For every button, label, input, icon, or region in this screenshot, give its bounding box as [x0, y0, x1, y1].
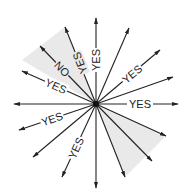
- ray-down-left: [33, 104, 96, 157]
- center-point: [93, 101, 99, 107]
- dimension-orientation-diagram: YES YES NO YES YES YES YES YES: [0, 0, 186, 196]
- label-right: YES: [129, 98, 151, 110]
- label-left-down: YES: [40, 110, 65, 129]
- label-up: YES: [90, 49, 102, 71]
- label-down-left: YES: [66, 135, 86, 160]
